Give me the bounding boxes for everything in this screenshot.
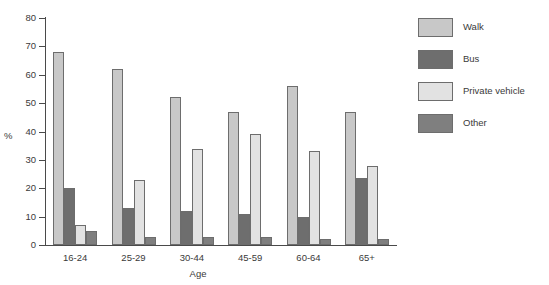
bar-private-vehicle-65+ xyxy=(367,166,378,245)
chart-root: 01020304050607080 % 16-2425-2930-4445-59… xyxy=(0,0,549,285)
bar-other-25-29 xyxy=(145,237,156,246)
y-axis-tick-label: 70 xyxy=(0,41,36,51)
y-axis-tick xyxy=(39,160,46,161)
bar-bus-25-29 xyxy=(123,208,134,245)
bar-other-60-64 xyxy=(320,239,331,245)
y-axis-tick xyxy=(39,75,46,76)
bar-walk-25-29 xyxy=(112,69,123,245)
x-axis-group-label-45-59: 45-59 xyxy=(220,252,280,263)
bar-bus-65+ xyxy=(356,178,367,245)
legend-label: Walk xyxy=(463,21,484,33)
x-axis-line xyxy=(45,245,397,246)
bar-other-65+ xyxy=(378,239,389,245)
y-axis-tick xyxy=(39,132,46,133)
legend-swatch-icon xyxy=(418,18,453,37)
x-axis-title: Age xyxy=(0,268,396,279)
y-axis-tick-label: 20 xyxy=(0,183,36,193)
legend-item-walk[interactable]: Walk xyxy=(418,14,549,46)
bar-other-16-24 xyxy=(86,231,97,245)
y-axis-tick-label: 50 xyxy=(0,98,36,108)
legend-item-bus[interactable]: Bus xyxy=(418,46,549,78)
y-axis-tick xyxy=(39,217,46,218)
y-axis-title: % xyxy=(4,130,12,141)
bar-private-vehicle-60-64 xyxy=(309,151,320,245)
y-axis-tick-label: 0 xyxy=(0,240,36,250)
bar-bus-30-44 xyxy=(181,211,192,245)
chart-legend: WalkBusPrivate vehicleOther xyxy=(418,14,549,142)
legend-swatch-icon xyxy=(418,82,453,101)
bar-walk-30-44 xyxy=(170,97,181,245)
y-axis-tick-label: 60 xyxy=(0,70,36,80)
bar-bus-60-64 xyxy=(298,217,309,245)
bar-bus-45-59 xyxy=(239,214,250,245)
y-axis-tick-label: 10 xyxy=(0,212,36,222)
legend-label: Private vehicle xyxy=(463,85,525,97)
bar-walk-60-64 xyxy=(287,86,298,245)
legend-label: Other xyxy=(463,117,487,129)
legend-swatch-icon xyxy=(418,114,453,133)
bar-other-45-59 xyxy=(261,237,272,246)
bar-private-vehicle-45-59 xyxy=(250,134,261,245)
y-axis-tick xyxy=(39,103,46,104)
x-axis-group-label-60-64: 60-64 xyxy=(279,252,339,263)
x-axis-group-label-16-24: 16-24 xyxy=(45,252,105,263)
x-axis-group-label-65+: 65+ xyxy=(337,252,397,263)
y-axis-tick xyxy=(39,46,46,47)
bar-bus-16-24 xyxy=(64,188,75,245)
legend-item-other[interactable]: Other xyxy=(418,110,549,142)
bar-walk-65+ xyxy=(345,112,356,245)
bar-walk-45-59 xyxy=(228,112,239,245)
y-axis-tick-label: 80 xyxy=(0,13,36,23)
bar-private-vehicle-30-44 xyxy=(192,149,203,245)
y-axis-tick xyxy=(39,18,46,19)
plot-area xyxy=(46,18,396,245)
bar-walk-16-24 xyxy=(53,52,64,245)
legend-item-private-vehicle[interactable]: Private vehicle xyxy=(418,78,549,110)
bar-private-vehicle-16-24 xyxy=(75,225,86,245)
x-axis-group-label-25-29: 25-29 xyxy=(104,252,164,263)
legend-swatch-icon xyxy=(418,50,453,69)
y-axis-tick xyxy=(39,188,46,189)
y-axis-tick xyxy=(39,245,46,246)
bar-private-vehicle-25-29 xyxy=(134,180,145,245)
y-axis-tick-label: 30 xyxy=(0,155,36,165)
x-axis-group-label-30-44: 30-44 xyxy=(162,252,222,263)
legend-label: Bus xyxy=(463,53,479,65)
bar-other-30-44 xyxy=(203,237,214,246)
